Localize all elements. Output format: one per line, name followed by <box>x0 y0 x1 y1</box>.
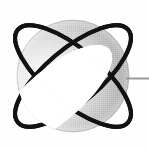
logo-canvas: Shaded grey sphere encircled by two cros… <box>0 0 149 149</box>
orbiting-sphere-logo <box>0 0 149 149</box>
